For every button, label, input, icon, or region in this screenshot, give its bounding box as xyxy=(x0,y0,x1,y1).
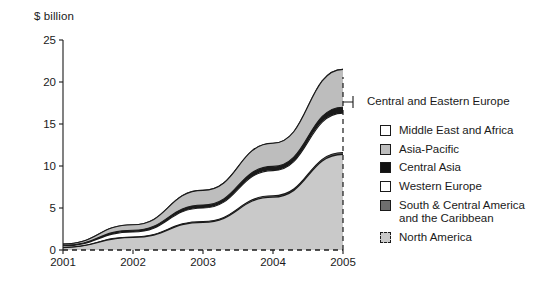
legend-item[interactable]: North America xyxy=(380,231,558,244)
x-tick-label-2003: 2003 xyxy=(190,256,216,268)
x-tick-label-2004: 2004 xyxy=(260,256,286,268)
y-tick-label-15: 15 xyxy=(30,118,56,130)
area-series-group xyxy=(63,69,343,250)
y-tick-label-10: 10 xyxy=(30,160,56,172)
legend-swatch-icon xyxy=(380,200,391,211)
chart-figure: $ billion 25 20 15 10 5 0 2001 2002 2003… xyxy=(0,0,560,286)
y-tick-label-0: 0 xyxy=(30,244,56,256)
legend-item[interactable]: Middle East and Africa xyxy=(380,124,558,137)
y-tick-label-25: 25 xyxy=(30,34,56,46)
legend-item[interactable]: Central Asia xyxy=(380,161,558,174)
legend-item[interactable]: Asia-Pacific xyxy=(380,143,558,156)
legend-item[interactable]: South & Central America and the Caribbea… xyxy=(380,199,558,225)
x-tick-label-2001: 2001 xyxy=(50,256,76,268)
plot-area xyxy=(63,40,343,250)
legend-swatch-icon xyxy=(380,181,391,192)
legend-item-label: North America xyxy=(399,231,472,244)
callout-label: Central and Eastern Europe xyxy=(367,95,510,107)
legend-swatch-icon xyxy=(380,162,391,173)
y-tick-label-5: 5 xyxy=(30,202,56,214)
legend-item-label: Western Europe xyxy=(399,180,482,193)
y-axis-title: $ billion xyxy=(34,10,74,22)
chart-legend: Middle East and AfricaAsia-PacificCentra… xyxy=(380,124,558,249)
stacked-area-svg xyxy=(63,40,343,250)
y-tick-marks xyxy=(59,40,63,250)
legend-item-label: South & Central America and the Caribbea… xyxy=(399,199,525,225)
callout-leader xyxy=(343,96,353,108)
y-tick-label-20: 20 xyxy=(30,76,56,88)
legend-item-label: Asia-Pacific xyxy=(399,143,459,156)
legend-swatch-icon xyxy=(380,125,391,136)
x-tick-label-2002: 2002 xyxy=(120,256,146,268)
legend-swatch-icon xyxy=(380,144,391,155)
legend-item-label: Central Asia xyxy=(399,161,461,174)
legend-swatch-icon xyxy=(380,232,391,243)
legend-item-label: Middle East and Africa xyxy=(399,124,513,137)
legend-item[interactable]: Western Europe xyxy=(380,180,558,193)
x-tick-label-2005: 2005 xyxy=(330,256,356,268)
